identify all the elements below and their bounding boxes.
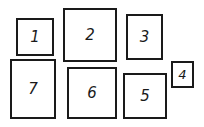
diagram-canvas: 1 2 3 4 5 6 7 bbox=[0, 0, 204, 127]
box-6: 6 bbox=[67, 67, 117, 119]
box-3: 3 bbox=[126, 14, 163, 60]
box-1-label: 1 bbox=[30, 30, 40, 45]
box-7: 7 bbox=[10, 59, 56, 119]
box-4-label: 4 bbox=[178, 68, 186, 81]
box-7-label: 7 bbox=[28, 82, 38, 97]
box-3-label: 3 bbox=[140, 30, 150, 45]
box-5-label: 5 bbox=[140, 89, 150, 104]
box-5: 5 bbox=[123, 73, 167, 119]
box-2: 2 bbox=[63, 8, 117, 62]
box-6-label: 6 bbox=[87, 86, 97, 101]
box-4: 4 bbox=[171, 61, 194, 88]
box-2-label: 2 bbox=[85, 28, 95, 43]
box-1: 1 bbox=[16, 18, 54, 56]
